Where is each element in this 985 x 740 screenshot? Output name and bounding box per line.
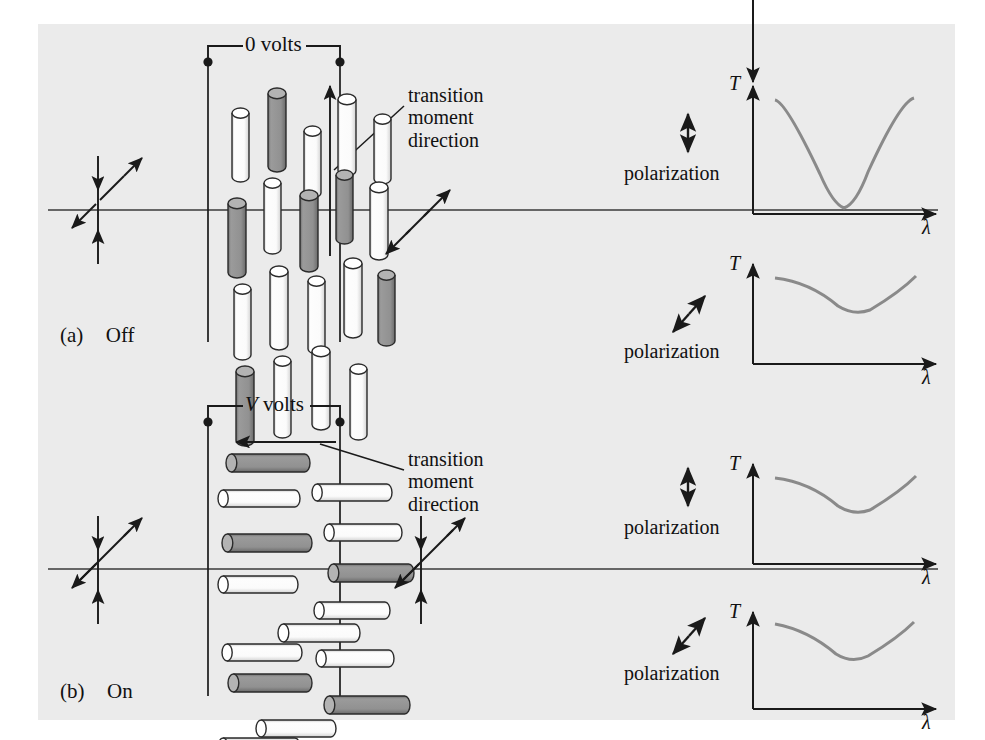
molecule-rod [222, 534, 312, 552]
graph-a-diagonal-curve [775, 276, 916, 312]
diagram-vector-layer [38, 24, 955, 720]
panel-b-state: On [107, 679, 133, 703]
molecule-rod [234, 284, 251, 360]
graph-b-vertical-pol-label: polarization [624, 516, 720, 538]
panel-b-annotation-line1: transition [408, 448, 484, 470]
panel-b-terminal-left [203, 417, 212, 426]
panel-b-terminal-right [335, 417, 344, 426]
molecule-rod [314, 602, 390, 619]
molecule-rod [336, 170, 353, 244]
panel-b-label: (b) On [60, 680, 133, 704]
panel-b-molecule-group [218, 454, 414, 740]
panel-a-label: (a) Off [60, 324, 135, 348]
graph-b-vertical-curve [775, 476, 916, 512]
molecule-rod [278, 624, 360, 642]
graph-b-diagonal-pol-arrow [673, 618, 705, 654]
molecule-rod [228, 674, 312, 692]
panel-b-voltage-unit: volts [263, 392, 304, 416]
panel-b-annotation-line2: moment [408, 470, 484, 492]
panel-b-annotation-leader [320, 444, 404, 470]
molecule-rod [218, 490, 300, 507]
panel-b-input-polarization [72, 516, 142, 624]
panel-a-voltage-label: 0 volts [245, 33, 302, 57]
graph-b-diagonal-x-label: λ [922, 711, 931, 733]
graph-a-diagonal-y-label: T [729, 252, 740, 274]
panel-a-voltage-value: 0 [245, 32, 256, 56]
panel-a-state: Off [106, 323, 135, 347]
graph-b-diagonal-y-label: T [729, 600, 740, 622]
panel-a-annotation-line2: moment [408, 106, 484, 128]
graph-a-diagonal-x-label: λ [922, 366, 931, 388]
molecule-rod [328, 564, 414, 582]
panel-a-index: (a) [60, 323, 83, 347]
molecule-rod [268, 88, 286, 172]
panel-a-annotation-line3: direction [408, 129, 484, 151]
molecule-rod [324, 696, 410, 714]
panel-a-output-polarization [386, 190, 450, 254]
molecule-rod [232, 108, 249, 182]
figure-canvas: 0 volts transition moment direction (a) … [38, 24, 955, 720]
graph-a-vertical-curve [775, 98, 914, 208]
panel-a-annotation-line1: transition [408, 84, 484, 106]
panel-a-transition-moment-label: transition moment direction [408, 84, 484, 151]
graph-a-diagonal-plot [753, 264, 936, 364]
molecule-rod [300, 190, 318, 272]
molecule-rod [312, 484, 392, 501]
molecule-rod [226, 454, 310, 472]
molecule-rod [264, 178, 281, 254]
panel-a-terminal-right [335, 57, 344, 66]
graph-b-vertical-plot [753, 464, 936, 564]
molecule-rod [222, 644, 302, 661]
molecule-rod [270, 266, 288, 350]
graph-a-diagonal-pol-arrow [673, 296, 705, 332]
molecule-rod [370, 182, 388, 260]
molecule-rod [316, 650, 394, 667]
molecule-rod [344, 258, 362, 338]
graph-b-vertical-y-label: T [729, 452, 740, 474]
molecule-rod [218, 576, 298, 593]
graph-b-diagonal-curve [775, 622, 914, 660]
graph-b-diagonal-plot [753, 612, 936, 709]
panel-a-terminal-left [203, 57, 212, 66]
panel-b-transition-moment-label: transition moment direction [408, 448, 484, 515]
molecule-rod [228, 198, 246, 278]
molecule-rod [256, 720, 336, 737]
graph-b-diagonal-pol-label: polarization [624, 662, 720, 684]
molecule-rod [338, 94, 356, 176]
panel-b-voltage-label: V volts [245, 393, 304, 417]
graph-a-vertical-pol-label: polarization [624, 162, 720, 184]
graph-a-diagonal-pol-label: polarization [624, 340, 720, 362]
graph-a-vertical-plot [753, 0, 936, 214]
panel-b-annotation-line3: direction [408, 493, 484, 515]
molecule-rod [312, 346, 330, 430]
graph-a-vertical-y-label: T [729, 72, 740, 94]
molecule-rod [374, 114, 391, 184]
molecule-rod [350, 364, 367, 440]
molecule-rod [378, 270, 395, 346]
panel-b-voltage-value: V [245, 392, 258, 416]
molecule-rod [304, 126, 321, 198]
graph-b-vertical-x-label: λ [922, 566, 931, 588]
molecule-rod [324, 524, 402, 541]
panel-a-voltage-unit: volts [261, 32, 302, 56]
molecule-rod [308, 276, 325, 354]
panel-b-index: (b) [60, 679, 85, 703]
graph-a-vertical-x-label: λ [922, 216, 931, 238]
